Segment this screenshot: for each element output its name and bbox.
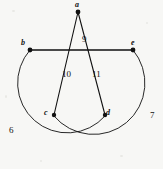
scan-speck xyxy=(5,95,7,98)
vertex-dot-b xyxy=(28,48,33,53)
vertex-label-c: c xyxy=(44,109,48,117)
geometry-figure: a b e c d 9 10 11 6 7 xyxy=(0,0,163,169)
vertex-label-b: b xyxy=(21,39,25,47)
scan-speck xyxy=(12,10,15,12)
vertex-label-e: e xyxy=(131,39,135,47)
figure-canvas xyxy=(0,0,163,169)
scan-speck xyxy=(120,155,123,157)
arc-6-b-to-d xyxy=(18,50,105,133)
edge-label-7: 7 xyxy=(150,111,155,120)
vertex-label-d: d xyxy=(106,109,110,117)
edge-label-10: 10 xyxy=(62,70,71,79)
vertex-dot-e xyxy=(131,48,136,53)
vertex-dot-c xyxy=(52,113,56,117)
edge-label-6: 6 xyxy=(9,126,14,135)
scan-speck xyxy=(40,160,42,162)
scan-speck xyxy=(146,22,148,24)
edge-label-11: 11 xyxy=(92,70,101,79)
edge-label-9: 9 xyxy=(82,35,87,44)
vertex-dot-a xyxy=(76,10,81,15)
vertex-label-a: a xyxy=(75,1,79,9)
segment-11-a-to-d xyxy=(78,12,105,115)
segment-10-a-to-c xyxy=(54,12,78,115)
